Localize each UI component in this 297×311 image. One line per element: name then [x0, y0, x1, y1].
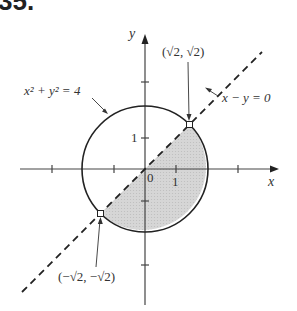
lower-point-label: (−√2, −√2) — [58, 269, 115, 285]
callout-lower-point — [96, 220, 100, 267]
x-tick-label: 1 — [172, 174, 179, 190]
x-axis-label: x — [268, 174, 274, 190]
circle-equation-label: x² + y² = 4 — [24, 83, 80, 99]
line-equation-label: x − y = 0 — [222, 90, 271, 106]
y-axis-label: y — [129, 26, 135, 42]
point-lower — [98, 211, 104, 217]
callout-upper-point — [188, 62, 189, 118]
graph — [0, 0, 297, 311]
y-tick-label: 1 — [131, 130, 138, 146]
upper-point-label: (√2, √2) — [162, 44, 204, 60]
y-axis-arrow-icon — [142, 34, 149, 44]
point-upper — [187, 122, 193, 128]
x-axis-arrow-icon — [270, 166, 279, 173]
origin-label: 0 — [147, 170, 154, 186]
